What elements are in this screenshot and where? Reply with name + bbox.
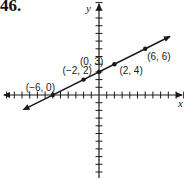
data-point [51,93,55,97]
point-label: (2, 4) [119,65,142,76]
y-axis-label: y [85,2,91,14]
point-label: (6, 6) [147,51,170,62]
data-point [81,77,85,81]
point-label: (−6, 0) [26,82,55,93]
coordinate-plane: xy(−6, 0)(−2, 2)(0, 3)(2, 4)(6, 6) [0,0,184,179]
data-point [97,70,101,74]
x-axis-label: x [177,97,183,109]
plotted-line [24,36,170,109]
data-point [112,62,116,66]
figure: 46. xy(−6, 0)(−2, 2)(0, 3)(2, 4)(6, 6) [0,0,184,179]
point-label: (0, 3) [80,56,103,67]
